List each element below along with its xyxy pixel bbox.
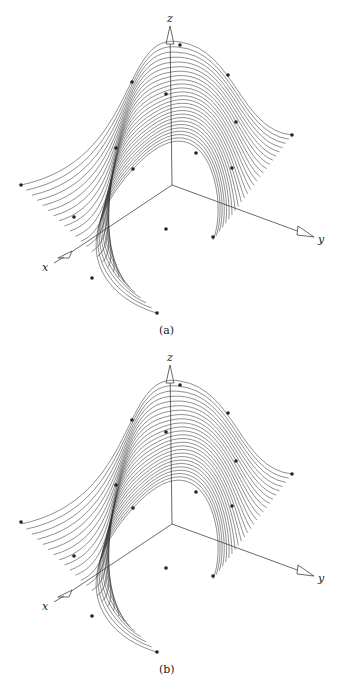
control-point xyxy=(290,133,294,137)
control-point xyxy=(90,614,94,618)
control-point xyxy=(234,120,238,124)
surface-curve xyxy=(98,477,220,647)
control-point xyxy=(211,574,215,578)
z-axis xyxy=(170,30,172,185)
control-point xyxy=(164,227,168,231)
control-point xyxy=(178,383,182,387)
z-axis-label-b: z xyxy=(166,351,173,364)
caption-a: (a) xyxy=(159,324,174,337)
z-axis-label-a: z xyxy=(166,12,173,25)
surface-curve xyxy=(32,52,286,195)
x-axis-label-a: x xyxy=(42,261,49,274)
y-axis xyxy=(172,524,300,571)
control-point xyxy=(114,146,118,150)
control-point xyxy=(194,151,198,155)
surface-curve xyxy=(37,396,282,539)
control-point xyxy=(155,311,159,315)
control-point xyxy=(230,504,234,508)
control-point xyxy=(72,554,76,558)
panel-b xyxy=(19,365,314,654)
panel-a xyxy=(19,26,314,315)
x-axis xyxy=(64,524,172,596)
y-axis-label-a: y xyxy=(317,233,325,246)
control-point xyxy=(155,650,159,654)
surface-curve xyxy=(43,401,280,544)
surface-curve xyxy=(43,62,280,205)
x-axis-arrow-icon xyxy=(58,251,72,258)
surface-curve xyxy=(21,41,292,185)
control-point xyxy=(130,418,134,422)
surface-curve xyxy=(37,57,282,200)
control-point xyxy=(164,430,168,434)
y-axis-arrow-icon xyxy=(297,565,314,576)
surface-curve xyxy=(106,457,235,617)
control-point xyxy=(211,235,215,239)
control-point xyxy=(178,43,182,47)
control-point xyxy=(290,472,294,476)
surface-curve xyxy=(98,138,220,308)
control-point xyxy=(72,215,76,219)
control-point xyxy=(226,73,230,77)
y-axis xyxy=(172,185,300,232)
x-axis xyxy=(64,185,172,257)
control-point xyxy=(164,92,168,96)
surface-curve xyxy=(105,460,232,621)
surface-curve xyxy=(70,84,264,231)
surface-curve xyxy=(65,419,267,565)
surface-curve xyxy=(65,80,267,226)
surface-curve xyxy=(32,391,286,534)
x-axis-label-b: x xyxy=(42,600,49,613)
y-axis-arrow-icon xyxy=(297,226,314,237)
control-point xyxy=(19,520,23,524)
control-point xyxy=(164,566,168,570)
surface-curve xyxy=(108,450,241,606)
y-axis-label-b: y xyxy=(317,572,325,585)
control-point xyxy=(234,459,238,463)
surface-curve xyxy=(106,118,235,278)
control-point xyxy=(90,276,94,280)
control-point xyxy=(130,80,134,84)
x-axis-arrow-icon xyxy=(58,590,72,597)
control-point xyxy=(230,166,234,170)
surface-curve xyxy=(54,410,273,555)
control-point xyxy=(194,490,198,494)
control-point xyxy=(19,183,23,187)
surface-curve xyxy=(105,121,232,282)
surface-curve xyxy=(54,71,273,216)
surface-curve xyxy=(108,111,241,267)
control-point xyxy=(131,167,135,171)
caption-b: (b) xyxy=(159,663,175,676)
z-axis xyxy=(170,369,172,524)
figure: z y x (a) z y x (b) xyxy=(0,0,339,686)
control-point xyxy=(131,506,135,510)
control-point xyxy=(114,483,118,487)
surface-curve xyxy=(70,423,264,570)
control-point xyxy=(226,411,230,415)
surface-curve xyxy=(21,380,292,524)
